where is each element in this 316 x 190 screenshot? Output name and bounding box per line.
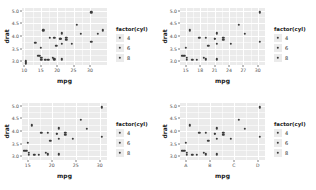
legend-item[interactable]: 8: [116, 149, 156, 157]
gridline-vertical-minor: [207, 8, 208, 65]
legend: factor(cyl)468: [116, 26, 156, 62]
legend-item[interactable]: 6: [116, 139, 156, 147]
y-axis-tick-label: 4.5: [12, 21, 19, 26]
legend-items: 468: [116, 129, 156, 157]
y-axis-label-text: drat: [161, 29, 168, 43]
y-axis-label: drat: [2, 8, 10, 65]
x-axis-tick-label: 30: [255, 68, 261, 73]
x-axis-tick-mark: [185, 65, 186, 67]
x-axis-label: mpg: [22, 172, 107, 179]
plot-area: 3.03.54.04.55.0ABCD: [180, 103, 265, 160]
gridline-vertical-minor: [88, 103, 89, 160]
y-axis-tick-mark: [178, 61, 180, 62]
legend-item[interactable]: 4: [274, 34, 314, 42]
gridline-vertical: [258, 8, 259, 65]
x-axis-tick-mark: [27, 160, 28, 162]
legend-key-swatch: [116, 44, 124, 52]
legend-item[interactable]: 8: [274, 54, 314, 62]
legend-item[interactable]: 6: [274, 139, 314, 147]
y-axis-tick-label: 3.0: [170, 154, 177, 159]
gridline-vertical-minor: [236, 8, 237, 65]
legend-key-point-icon: [277, 142, 279, 144]
legend-key-point-icon: [277, 132, 279, 134]
y-axis-tick-label: 3.0: [12, 59, 19, 64]
gridline-vertical-minor: [251, 8, 252, 65]
y-axis-tick-label: 4.0: [12, 33, 19, 38]
y-axis-tick-label: 4.5: [170, 116, 177, 121]
legend-key-swatch: [274, 129, 282, 137]
x-axis-tick-mark: [209, 160, 210, 162]
x-axis-label: mpg: [180, 77, 265, 84]
scatter-panel-1: dratmpg3.03.54.04.55.01015202530factor(c…: [0, 0, 158, 95]
legend-item-label: 6: [127, 45, 130, 51]
gridline-vertical: [76, 103, 77, 160]
legend-item[interactable]: 8: [274, 149, 314, 157]
x-axis-tick-mark: [51, 160, 52, 162]
y-axis-tick-mark: [20, 105, 22, 106]
legend-key-point-icon: [119, 142, 121, 144]
legend-key-point-icon: [277, 152, 279, 154]
legend-key-swatch: [116, 129, 124, 137]
x-axis-tick-label: D: [256, 163, 260, 168]
x-axis-tick-mark: [57, 65, 58, 67]
legend-title: factor(cyl): [116, 26, 156, 32]
legend-key-point-icon: [119, 37, 121, 39]
scatter-panel-3: dratmpg3.03.54.04.55.015202530factor(cyl…: [0, 95, 158, 190]
legend-key-swatch: [274, 139, 282, 147]
legend-item-label: 8: [285, 150, 288, 156]
x-axis-tick-label: 18: [197, 68, 203, 73]
gridline-vertical: [210, 103, 211, 160]
y-axis-tick-mark: [178, 105, 180, 106]
y-axis-tick-mark: [178, 143, 180, 144]
legend-item[interactable]: 4: [274, 129, 314, 137]
legend: factor(cyl)468: [274, 26, 314, 62]
x-axis-tick-label: B: [208, 163, 211, 168]
x-axis-tick-mark: [73, 65, 74, 67]
x-axis-tick-mark: [24, 65, 25, 67]
legend-item[interactable]: 4: [116, 129, 156, 137]
x-axis-tick-mark: [185, 160, 186, 162]
legend-item[interactable]: 4: [116, 34, 156, 42]
legend-item-label: 4: [127, 130, 130, 136]
x-axis-tick-label: 15: [38, 68, 44, 73]
y-axis-label-text: drat: [3, 124, 10, 138]
y-axis-label: drat: [160, 103, 168, 160]
y-axis-tick-mark: [20, 10, 22, 11]
legend-item[interactable]: 6: [274, 44, 314, 52]
y-axis-tick-mark: [178, 118, 180, 119]
plot-area: 3.03.54.04.55.01015202530: [22, 8, 107, 65]
legend-key-swatch: [116, 54, 124, 62]
gridline-vertical: [243, 8, 244, 65]
y-axis-tick-label: 4.5: [170, 21, 177, 26]
y-axis-label-text: drat: [3, 29, 10, 43]
x-axis-tick-label: C: [232, 163, 235, 168]
plot-area: 3.03.54.04.55.0151821242730: [180, 8, 265, 65]
x-axis-tick-mark: [200, 65, 201, 67]
legend-key-point-icon: [119, 152, 121, 154]
gridline-vertical: [24, 8, 25, 65]
x-axis-tick-mark: [257, 65, 258, 67]
y-axis-tick-mark: [178, 23, 180, 24]
legend-title: factor(cyl): [274, 121, 314, 127]
gridline-vertical-minor: [82, 8, 83, 65]
x-axis-tick-mark: [257, 160, 258, 162]
legend-key-point-icon: [277, 57, 279, 59]
x-axis-label: mpg: [180, 172, 265, 179]
legend: factor(cyl)468: [274, 121, 314, 157]
x-axis-tick-label: A: [184, 163, 187, 168]
gridline-vertical: [258, 103, 259, 160]
gridline-vertical: [100, 103, 101, 160]
y-axis-tick-label: 4.0: [170, 33, 177, 38]
scatter-panel-2: dratmpg3.03.54.04.55.0151821242730factor…: [158, 0, 316, 95]
legend-item[interactable]: 6: [116, 44, 156, 52]
legend-title: factor(cyl): [274, 26, 314, 32]
legend-key-point-icon: [119, 132, 121, 134]
legend-items: 468: [274, 129, 314, 157]
y-axis-tick-label: 3.0: [170, 59, 177, 64]
gridline-vertical: [229, 8, 230, 65]
y-axis-tick-label: 5.0: [170, 103, 177, 108]
x-axis-tick-label: 10: [21, 68, 27, 73]
y-axis-tick-mark: [20, 23, 22, 24]
legend-item[interactable]: 8: [116, 54, 156, 62]
y-axis-tick-label: 3.5: [12, 141, 19, 146]
